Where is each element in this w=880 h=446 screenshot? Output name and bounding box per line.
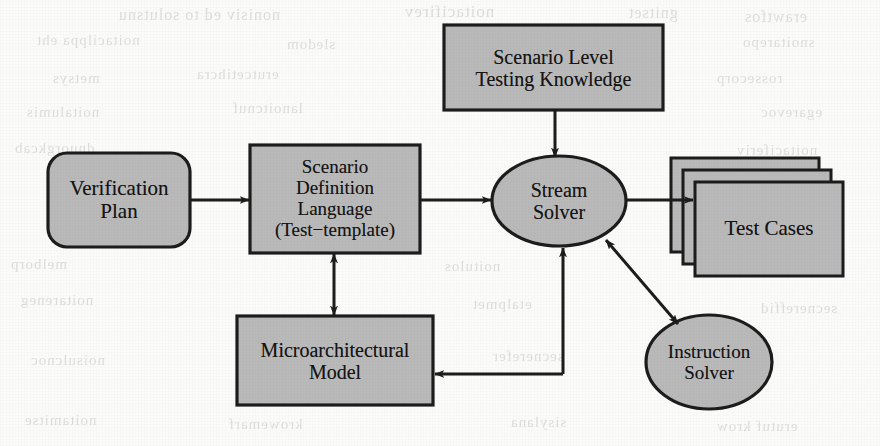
edge-stream-instruction-bidirectional [606,240,678,324]
node-scenario-definition-language [250,145,420,253]
figure-canvas: nonisiv ed to solutsnunoitacifirevgnitse… [0,0,880,446]
node-instruction-solver [646,315,772,409]
node-microarchitectural-model [237,316,433,405]
node-stream-solver [492,156,626,246]
node-test-cases-sheet-front [695,182,843,276]
node-scenario-level-testing-knowledge [444,25,663,110]
node-verification-plan [48,153,190,247]
diagram-svg [0,0,880,446]
